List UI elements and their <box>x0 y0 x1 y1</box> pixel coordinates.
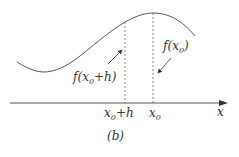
label-f-x0: f(x0) <box>162 39 189 55</box>
tick-label-x0: x0 <box>149 106 161 122</box>
arrow-step <box>108 50 122 64</box>
axis-label-x: x <box>217 105 224 119</box>
figure-caption: (b) <box>107 129 124 143</box>
label-f-x0-plus-h: f(x0+h) <box>72 70 117 86</box>
derivative-diagram: f(x0+h) f(x0) x0+h x0 x (b) <box>0 0 239 157</box>
arrow-peak <box>158 58 171 73</box>
tick-label-x0-plus-h: x0+h <box>104 106 134 122</box>
